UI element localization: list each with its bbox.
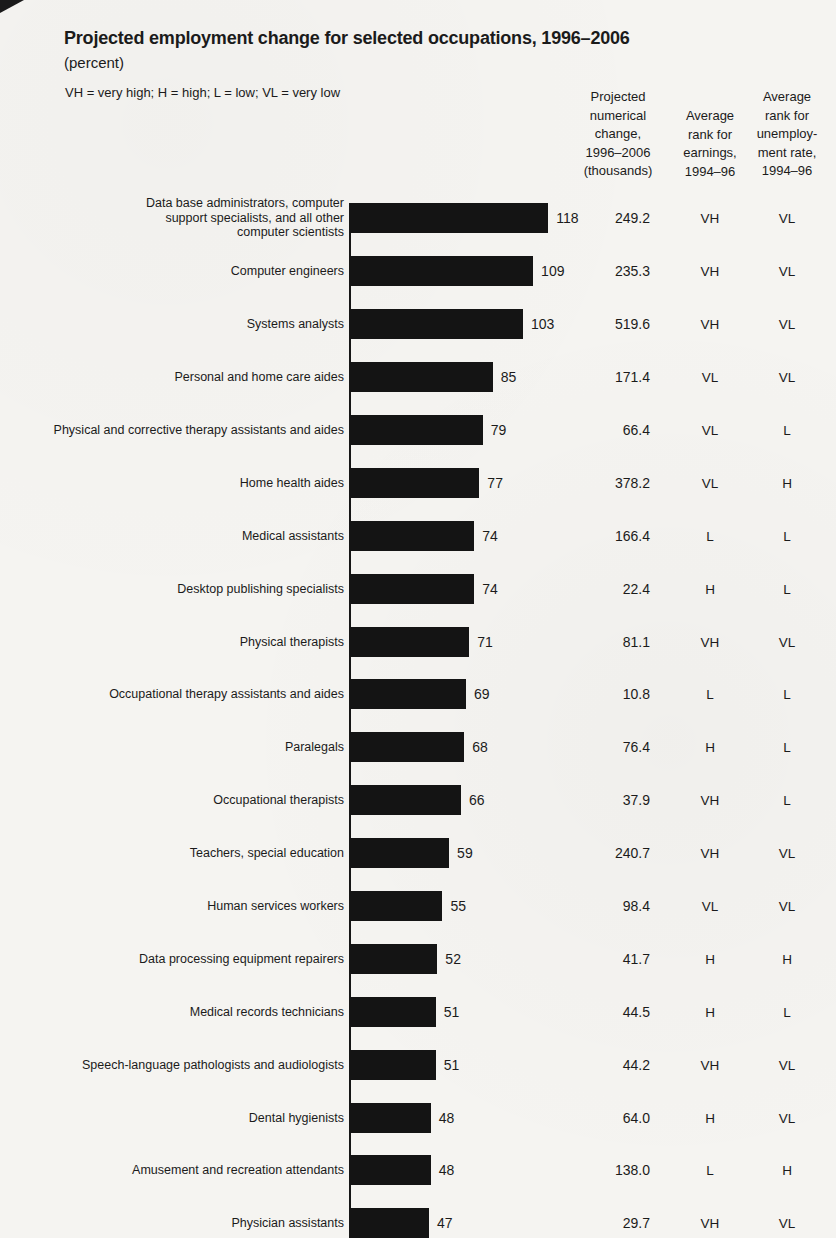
numerical-change-value: 76.4 [558, 739, 650, 755]
bar [350, 891, 442, 921]
bar-value: 74 [482, 528, 498, 544]
numerical-change-value: 171.4 [558, 369, 650, 385]
bar-value: 48 [439, 1110, 455, 1126]
earnings-rank-value: VL [680, 899, 740, 914]
row-occupation-label: Amusement and recreation attendants [0, 1163, 344, 1178]
bar-group: 51 [350, 1050, 459, 1080]
bar-value: 48 [439, 1162, 455, 1178]
unemployment-rank-value: VL [757, 317, 817, 332]
numerical-change-value: 240.7 [558, 845, 650, 861]
numerical-change-value: 29.7 [558, 1215, 650, 1231]
bar [350, 1103, 431, 1133]
row-occupation-label: Physician assistants [0, 1216, 344, 1231]
chart-row: Occupational therapists 66 37.9 VH L [0, 774, 836, 827]
bar-group: 77 [350, 468, 503, 498]
figure: Projected employment change for selected… [0, 0, 836, 1238]
bar-group: 51 [350, 997, 459, 1027]
bar [350, 838, 449, 868]
bar [350, 732, 464, 762]
chart-row: Systems analysts 103 519.6 VH VL [0, 298, 836, 351]
earnings-rank-value: VL [680, 370, 740, 385]
chart-row: Human services workers 55 98.4 VL VL [0, 880, 836, 933]
chart-row: Home health aides 77 378.2 VL H [0, 456, 836, 509]
bar-group: 47 [350, 1208, 453, 1238]
column-header-numerical-change: Projected numerical change, 1996–2006 (t… [566, 88, 670, 181]
bar-value: 51 [444, 1004, 460, 1020]
row-occupation-label: Medical records technicians [0, 1005, 344, 1020]
numerical-change-value: 44.2 [558, 1057, 650, 1073]
unemployment-rank-value: L [757, 740, 817, 755]
bar-value: 47 [437, 1215, 453, 1231]
bar [350, 203, 548, 233]
chart-row: Paralegals 68 76.4 H L [0, 721, 836, 774]
unemployment-rank-value: VL [757, 264, 817, 279]
numerical-change-value: 10.8 [558, 686, 650, 702]
numerical-change-value: 44.5 [558, 1004, 650, 1020]
bar [350, 256, 533, 286]
numerical-change-value: 41.7 [558, 951, 650, 967]
row-occupation-label: Systems analysts [0, 317, 344, 332]
earnings-rank-value: VH [680, 793, 740, 808]
unemployment-rank-value: VL [757, 211, 817, 226]
bar [350, 468, 479, 498]
chart-row: Physical therapists 71 81.1 VH VL [0, 615, 836, 668]
unemployment-rank-value: L [757, 423, 817, 438]
earnings-rank-value: L [680, 528, 740, 543]
bar [350, 362, 493, 392]
earnings-rank-value: L [680, 687, 740, 702]
earnings-rank-value: L [680, 1163, 740, 1178]
bar [350, 415, 483, 445]
numerical-change-value: 66.4 [558, 422, 650, 438]
numerical-change-value: 64.0 [558, 1110, 650, 1126]
bar [350, 309, 523, 339]
chart-rows: Data base administrators, computer suppo… [0, 192, 836, 1238]
bar-value: 66 [469, 792, 485, 808]
bar-group: 71 [350, 627, 493, 657]
column-header-earnings-rank: Average rank for earnings, 1994–96 [678, 107, 742, 181]
rank-legend: VH = very high; H = high; L = low; VL = … [65, 85, 340, 100]
row-occupation-label: Dental hygienists [0, 1110, 344, 1125]
bar-group: 109 [350, 256, 564, 286]
row-occupation-label: Occupational therapy assistants and aide… [0, 687, 344, 702]
numerical-change-value: 519.6 [558, 316, 650, 332]
earnings-rank-value: VL [680, 423, 740, 438]
bar-group: 48 [350, 1103, 454, 1133]
row-occupation-label: Data base administrators, computer suppo… [0, 197, 344, 241]
chart-row: Computer engineers 109 235.3 VH VL [0, 245, 836, 298]
bar-value: 77 [487, 475, 503, 491]
earnings-rank-value: H [680, 1004, 740, 1019]
unemployment-rank-value: L [757, 581, 817, 596]
bar-value: 51 [444, 1057, 460, 1073]
row-occupation-label: Speech-language pathologists and audiolo… [0, 1057, 344, 1072]
bar-value: 74 [482, 581, 498, 597]
bar-value: 71 [477, 634, 493, 650]
chart-row: Medical assistants 74 166.4 L L [0, 509, 836, 562]
earnings-rank-value: H [680, 951, 740, 966]
unemployment-rank-value: L [757, 793, 817, 808]
row-occupation-label: Home health aides [0, 476, 344, 491]
bar [350, 521, 474, 551]
corner-scan-artifact [0, 0, 24, 13]
row-occupation-label: Teachers, special education [0, 846, 344, 861]
unemployment-rank-value: VL [757, 846, 817, 861]
numerical-change-value: 81.1 [558, 634, 650, 650]
figure-unit-label: (percent) [64, 54, 124, 71]
bar-group: 52 [350, 944, 461, 974]
earnings-rank-value: VH [680, 211, 740, 226]
bar-group: 103 [350, 309, 554, 339]
bar [350, 679, 466, 709]
unemployment-rank-value: L [757, 1004, 817, 1019]
numerical-change-value: 235.3 [558, 263, 650, 279]
bar [350, 785, 461, 815]
chart-row: Medical records technicians 51 44.5 H L [0, 985, 836, 1038]
bar [350, 1208, 429, 1238]
bar-value: 55 [450, 898, 466, 914]
bar-group: 74 [350, 521, 498, 551]
earnings-rank-value: H [680, 740, 740, 755]
earnings-rank-value: H [680, 1110, 740, 1125]
chart-row: Teachers, special education 59 240.7 VH … [0, 827, 836, 880]
bar-group: 68 [350, 732, 488, 762]
chart-row: Amusement and recreation attendants 48 1… [0, 1144, 836, 1197]
unemployment-rank-value: L [757, 528, 817, 543]
bar-group: 118 [350, 203, 579, 233]
